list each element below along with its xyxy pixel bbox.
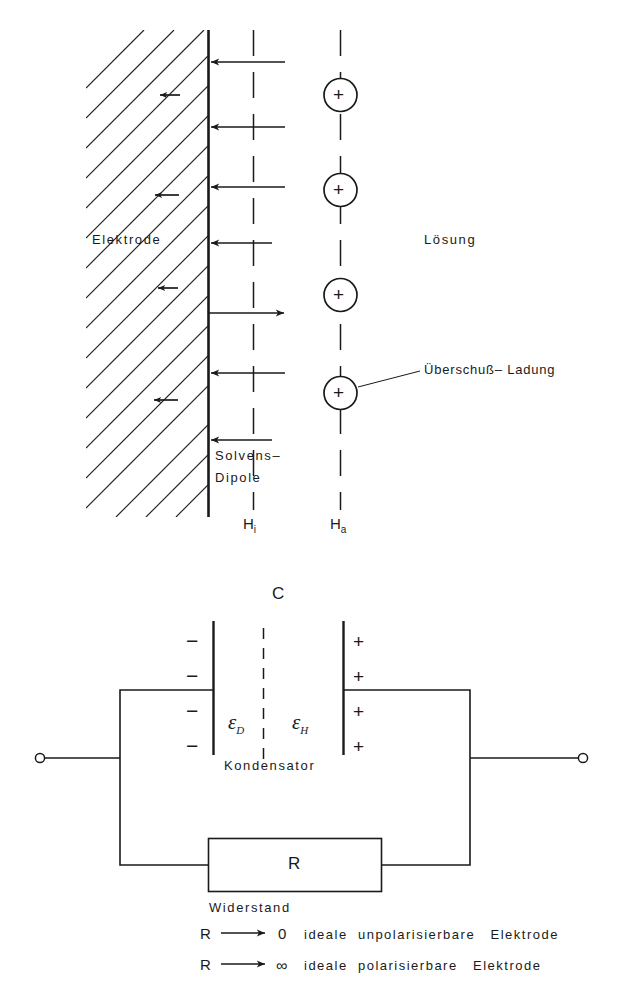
condition-1-symbol: R: [200, 925, 211, 942]
figure-canvas: 0 / R --> ∞) --> Elektrode Lösung Übersc…: [0, 0, 627, 988]
plate-charge-negative-2: −: [186, 665, 198, 686]
terminal-right: [578, 753, 587, 762]
permittivity-h-symbol: εH: [292, 710, 308, 736]
circuit-wires: [45, 690, 578, 865]
plate-charge-positive-1: +: [353, 632, 364, 651]
inner-helmholtz-label: Hi: [243, 515, 256, 537]
ion-plus-4: +: [333, 383, 344, 402]
outer-helmholtz-sub: a: [341, 524, 347, 535]
dipole-arrows-inward: [211, 62, 285, 440]
condition-2-symbol: R: [200, 956, 211, 973]
condition-arrows: [221, 933, 265, 964]
plate-charge-negative-4: −: [186, 735, 198, 756]
solvent-dipole-label-line1: Solvens–: [215, 448, 281, 464]
plate-charge-negative-3: −: [186, 700, 198, 721]
permittivity-d-sub: D: [236, 724, 244, 736]
excess-charge-ions: [324, 79, 357, 410]
plate-charge-positive-3: +: [353, 702, 364, 721]
condition-1-limit: 0: [278, 925, 286, 942]
resistor-name-label: Widerstand: [209, 900, 291, 916]
solution-label: Lösung: [424, 232, 476, 248]
condition-1-description: ideale unpolarisierbare Elektrode: [304, 927, 559, 942]
excess-charge-label: Überschuß– Ladung: [424, 362, 555, 378]
electrode-hatching: [86, 30, 208, 517]
diagram-vector-layer: 0 / R --> ∞) -->: [0, 0, 627, 988]
resistor-symbol-label: R: [288, 853, 300, 874]
outer-helmholtz-label: Ha: [330, 515, 346, 537]
ion-plus-3: +: [333, 285, 344, 304]
capacitor-name-label: Kondensator: [224, 758, 315, 774]
condition-2-description: ideale polarisierbare Elektrode: [304, 958, 541, 973]
capacitor-symbol-label: C: [272, 584, 284, 604]
solvent-dipole-label-line2: Dipole: [215, 470, 261, 486]
inner-helmholtz-base: H: [243, 515, 254, 532]
plate-charge-negative-1: −: [186, 630, 198, 651]
plate-charge-positive-4: +: [353, 737, 364, 756]
outer-helmholtz-base: H: [330, 515, 341, 532]
inner-helmholtz-sub: i: [254, 524, 256, 535]
ion-plus-2: +: [333, 180, 344, 199]
excess-charge-leader: [358, 371, 420, 387]
electrode-label: Elektrode: [92, 232, 161, 248]
terminal-left: [35, 753, 44, 762]
ion-plus-1: +: [333, 85, 344, 104]
permittivity-h-sub: H: [300, 724, 308, 736]
plate-charge-positive-2: +: [353, 667, 364, 686]
condition-2-limit: ∞: [276, 957, 287, 975]
permittivity-d-symbol: εD: [228, 710, 244, 736]
